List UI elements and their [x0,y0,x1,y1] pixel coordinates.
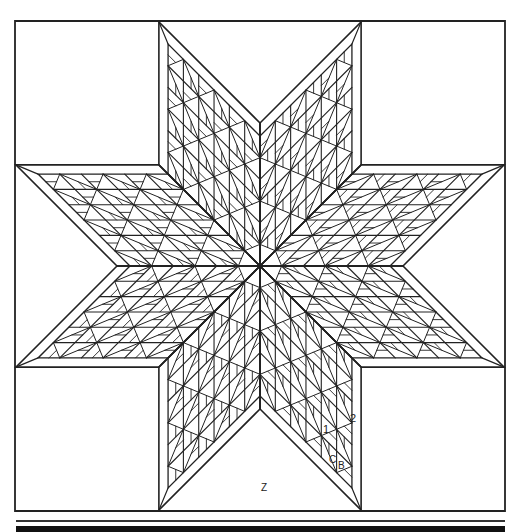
piece-label-2: 2 [350,413,356,424]
piece-label-b: B [338,461,345,471]
divider-thin [16,520,505,522]
divider-thick [16,526,505,532]
piece-label-c: C [329,455,336,465]
star-quilt-diagram [0,0,517,532]
background-label-z: Z [261,483,267,493]
piece-label-1: 1 [323,424,329,435]
